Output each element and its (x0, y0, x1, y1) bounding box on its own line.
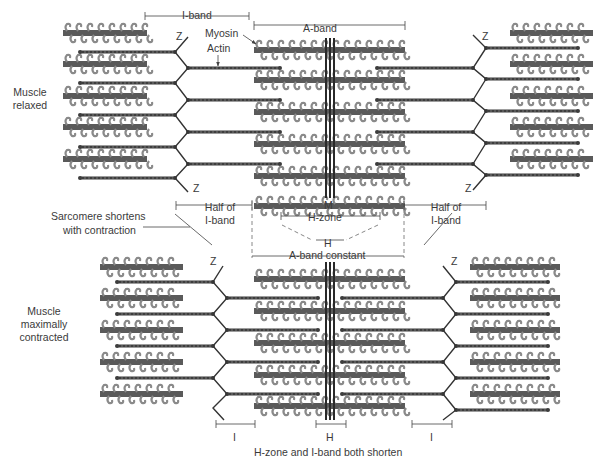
label-line: Half of (192, 201, 248, 214)
myosin-label: Myosin (205, 27, 238, 40)
h-zone-label: H-zone (308, 211, 342, 224)
i-label: I (233, 431, 236, 444)
z-line-label: Z (176, 30, 182, 43)
sarcomere-shortens-label-2: with contraction (63, 224, 136, 237)
muscle-relaxed-label: Muscle relaxed (8, 86, 52, 112)
state-line: relaxed (8, 99, 52, 112)
i-band-label: I-band (182, 9, 212, 22)
a-band-constant-label: A-band constant (289, 249, 365, 262)
muscle-contracted-label: Muscle maximally contracted (14, 305, 74, 344)
label-line: I-band (418, 214, 474, 227)
half-i-band-left-label: Half of I-band (192, 201, 248, 227)
half-i-band-right-label: Half of I-band (418, 201, 474, 227)
state-line: maximally (14, 318, 74, 331)
sarcomere-shortens-label: Sarcomere shortens (51, 210, 146, 223)
caption: H-zone and I-band both shorten (254, 446, 402, 459)
a-band-label: A-band (303, 22, 337, 35)
z-line-label: Z (451, 255, 457, 268)
state-line: contracted (14, 331, 74, 344)
z-line-label: Z (465, 182, 471, 195)
state-line: Muscle (14, 305, 74, 318)
actin-label: Actin (207, 42, 230, 55)
z-line-label: Z (210, 255, 216, 268)
state-line: Muscle (8, 86, 52, 99)
h-label: H (326, 431, 334, 444)
label-line: I-band (192, 214, 248, 227)
z-line-label: Z (193, 182, 199, 195)
z-line-label: Z (482, 30, 488, 43)
label-line: Half of (418, 201, 474, 214)
i-label: I (430, 431, 433, 444)
